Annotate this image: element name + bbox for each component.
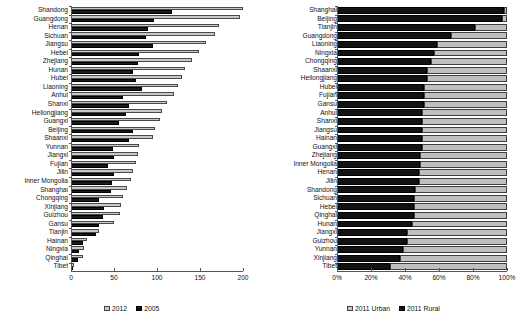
category-label: Ningxia	[267, 50, 337, 57]
segment-rural	[337, 109, 422, 116]
segment-rural	[337, 186, 415, 193]
category-label: Qinghai	[2, 255, 68, 262]
category-label: Jiangsu	[267, 127, 337, 134]
category-label: Sichuan	[2, 33, 68, 40]
category-label: Shaanxi	[267, 67, 337, 74]
category-label: Inner Mongolia	[267, 161, 337, 168]
segment-rural	[337, 118, 422, 125]
segment-rural	[337, 32, 451, 39]
x-axis-tick	[243, 268, 244, 271]
legend-item: 2005	[136, 305, 159, 312]
segment-rural	[337, 212, 414, 219]
category-label: Beijing	[2, 127, 68, 134]
category-label: Fujian	[267, 92, 337, 99]
category-label: Jilin	[2, 169, 68, 176]
bar-2005	[71, 62, 138, 65]
x-axis-tick	[200, 268, 201, 271]
legend-swatch-icon	[399, 306, 405, 312]
bar-2005	[71, 104, 129, 107]
segment-urban	[420, 161, 507, 168]
x-axis-tick-label: 0	[69, 275, 73, 282]
category-label: Tianjin	[2, 229, 68, 236]
segment-urban	[422, 109, 507, 116]
segment-urban	[437, 41, 507, 48]
x-axis-tick-label: 80%	[466, 275, 479, 282]
segment-rural	[337, 246, 403, 253]
segment-rural	[337, 221, 412, 228]
x-axis-tick	[71, 268, 72, 271]
legend-label: 2011 Urban	[355, 305, 390, 312]
bar-2005	[71, 250, 79, 253]
category-label: Hainan	[267, 135, 337, 142]
segment-urban	[419, 169, 507, 176]
segment-urban	[475, 24, 507, 31]
category-label: Guizhou	[267, 238, 337, 245]
segment-urban	[451, 32, 507, 39]
legend-item: 2011 Rural	[399, 305, 440, 312]
x-axis-tick-label: 40%	[398, 275, 411, 282]
category-label: Anhui	[267, 110, 337, 117]
segment-urban	[414, 195, 508, 202]
bar-2005	[71, 207, 104, 210]
category-label: Zhejiang	[2, 58, 68, 65]
bar-2005	[71, 156, 114, 159]
category-label: Hebei	[267, 204, 337, 211]
legend-item: 2012	[104, 305, 127, 312]
category-label: Shanghai	[267, 7, 337, 14]
segment-urban	[504, 7, 507, 14]
category-label: Jiangxi	[2, 152, 68, 159]
segment-rural	[337, 169, 419, 176]
segment-urban	[422, 118, 507, 125]
category-label: Heilongjiang	[267, 75, 337, 82]
bar-2005	[71, 113, 126, 116]
bar-2005	[71, 258, 78, 261]
category-label: Heilongjiang	[2, 110, 68, 117]
category-label: Guangxi	[2, 118, 68, 125]
category-label: Guangxi	[267, 144, 337, 151]
category-label: Qinghai	[267, 212, 337, 219]
segment-rural	[337, 58, 431, 65]
legend-item: 2011 Urban	[347, 305, 390, 312]
left-plot-area: ShandongGuangdongHenanSichuanJiangsuHebe…	[0, 0, 265, 325]
x-axis-tick	[337, 268, 338, 271]
bar-2005	[71, 190, 111, 193]
x-axis-tick-label: 100%	[499, 275, 516, 282]
segment-rural	[337, 229, 407, 236]
segment-urban	[431, 58, 508, 65]
bar-2005	[71, 70, 133, 73]
category-label: Guangdong	[2, 16, 68, 23]
bar-2005	[71, 224, 99, 227]
x-axis-line	[71, 271, 243, 272]
category-label: Tibet	[267, 263, 337, 270]
x-axis-tick	[157, 268, 158, 271]
segment-rural	[337, 41, 437, 48]
legend-swatch-icon	[136, 306, 142, 312]
segment-urban	[424, 84, 507, 91]
category-label: Liaoning	[267, 41, 337, 48]
x-axis-tick-label: 20%	[364, 275, 377, 282]
bar-2005	[71, 139, 129, 142]
segment-rural	[337, 92, 424, 99]
x-axis-tick-label: 100	[151, 275, 162, 282]
category-label: Sichuan	[267, 195, 337, 202]
category-label: Xinjiang	[2, 204, 68, 211]
left-chart-panel: ShandongGuangdongHenanSichuanJiangsuHebe…	[0, 0, 265, 325]
segment-urban	[427, 67, 507, 74]
category-label: Inner Mongolia	[2, 178, 68, 185]
category-label: Beijing	[267, 16, 337, 23]
legend-label: 2005	[144, 305, 159, 312]
segment-urban	[407, 229, 507, 236]
x-axis-tick-label: 200	[237, 275, 248, 282]
segment-urban	[403, 246, 507, 253]
segment-urban	[414, 212, 508, 219]
segment-rural	[337, 144, 422, 151]
left-chart-legend: 20122005	[104, 305, 159, 312]
bar-2005	[71, 198, 99, 201]
segment-urban	[424, 101, 507, 108]
segment-rural	[337, 263, 390, 270]
bar-2005	[71, 130, 133, 133]
category-label: Chongqing	[267, 58, 337, 65]
bar-2005	[71, 10, 172, 13]
segment-rural	[337, 7, 504, 14]
category-label: Shaanxi	[2, 135, 68, 142]
